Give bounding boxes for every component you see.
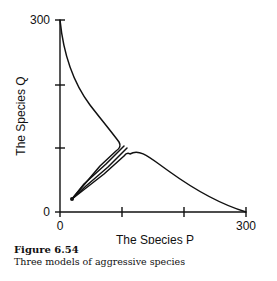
equilibrium-point bbox=[70, 197, 74, 201]
x-tick-label-300: 300 bbox=[236, 219, 256, 233]
y-axis-label: The Species Q bbox=[14, 76, 28, 155]
y-tick-label-0: 0 bbox=[43, 205, 50, 219]
trajectory-from-q-axis bbox=[60, 20, 120, 199]
trajectory-from-p-axis bbox=[72, 152, 246, 212]
y-tick-label-300: 300 bbox=[30, 13, 50, 27]
trajectories bbox=[60, 20, 246, 212]
figure-caption: Figure 6.54 Three models of aggressive s… bbox=[14, 244, 185, 268]
figure-caption-text: Three models of aggressive species bbox=[14, 256, 185, 268]
trajectory-middle-2 bbox=[72, 148, 127, 199]
x-tick-label-0: 0 bbox=[57, 219, 64, 233]
phase-plot: 300 0 0 300 The Species Q The Species P bbox=[0, 0, 277, 244]
x-axis-label: The Species P bbox=[116, 233, 194, 244]
figure-number: Figure 6.54 bbox=[14, 244, 185, 256]
